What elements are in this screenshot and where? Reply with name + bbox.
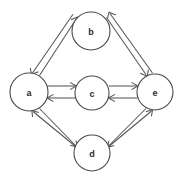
edge-d-e-line-forward — [109, 109, 147, 147]
edge-b-e-line-forward — [107, 18, 147, 75]
node-b-circle — [72, 12, 110, 50]
nodes-layer: a b c d e — [10, 12, 173, 171]
node-e-circle — [137, 74, 173, 110]
edge-c-e[interactable] — [109, 82, 139, 101]
edge-d-e[interactable] — [104, 109, 153, 151]
edge-a-b-line-backward — [33, 14, 74, 73]
edge-b-e[interactable] — [107, 12, 153, 76]
edge-a-c[interactable] — [47, 82, 77, 101]
node-a[interactable]: a — [10, 73, 48, 111]
node-a-circle — [10, 73, 48, 111]
edge-a-d-line-forward — [40, 109, 77, 147]
edge-b-e-line-backward — [110, 14, 153, 74]
edge-a-b-line-forward — [40, 19, 77, 76]
graph-canvas: a b c d e — [0, 0, 186, 183]
edge-a-d[interactable] — [32, 109, 81, 151]
node-b[interactable]: b — [72, 12, 110, 50]
node-c[interactable]: c — [75, 76, 109, 110]
edge-d-e-line-backward — [104, 111, 152, 151]
node-d-circle — [74, 135, 110, 171]
edge-a-b[interactable] — [30, 14, 79, 75]
edge-a-d-line-backward — [33, 112, 81, 151]
node-d[interactable]: d — [74, 135, 110, 171]
graph-diagram: a b c d e — [0, 0, 186, 183]
node-c-circle — [75, 76, 109, 110]
node-e[interactable]: e — [137, 74, 173, 110]
